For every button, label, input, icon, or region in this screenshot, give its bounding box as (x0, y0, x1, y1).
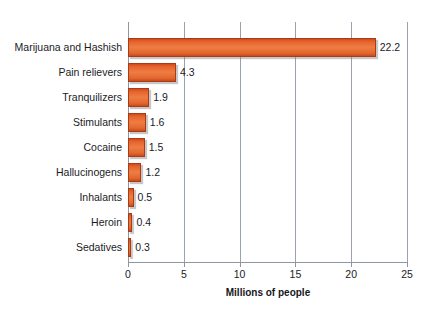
value-label: 1.9 (153, 85, 168, 110)
bar[interactable] (128, 188, 134, 207)
value-label: 0.5 (138, 185, 153, 210)
bar-row: Stimulants1.6 (0, 110, 429, 135)
value-label: 1.2 (145, 160, 160, 185)
bar-row: Cocaine1.5 (0, 135, 429, 160)
value-label: 4.3 (180, 60, 195, 85)
x-tick-mark-20 (351, 262, 352, 267)
category-label: Pain relievers (0, 60, 122, 85)
bar-wrapper (128, 185, 134, 210)
x-tick-label-15: 15 (275, 268, 315, 280)
bar-row: Heroin0.4 (0, 210, 429, 235)
value-label: 1.6 (150, 110, 165, 135)
bar-wrapper (128, 60, 176, 85)
category-label: Cocaine (0, 135, 122, 160)
bar-row: Tranquilizers1.9 (0, 85, 429, 110)
x-tick-mark-10 (240, 262, 241, 267)
value-label: 0.4 (136, 210, 151, 235)
bar-wrapper (128, 35, 376, 60)
bar[interactable] (128, 238, 131, 257)
x-tick-label-0: 0 (108, 268, 148, 280)
bar[interactable] (128, 63, 176, 82)
category-label: Inhalants (0, 185, 122, 210)
x-tick-label-10: 10 (220, 268, 260, 280)
value-label: 0.3 (135, 235, 150, 260)
bar[interactable] (128, 113, 146, 132)
bar-wrapper (128, 235, 131, 260)
bar-wrapper (128, 135, 145, 160)
bar[interactable] (128, 88, 149, 107)
bar[interactable] (128, 213, 132, 232)
category-label: Tranquilizers (0, 85, 122, 110)
category-label: Hallucinogens (0, 160, 122, 185)
bar-wrapper (128, 160, 141, 185)
category-label: Heroin (0, 210, 122, 235)
value-label: 1.5 (149, 135, 164, 160)
x-tick-mark-5 (184, 262, 185, 267)
x-tick-label-25: 25 (387, 268, 427, 280)
bar[interactable] (128, 163, 141, 182)
bar[interactable] (128, 138, 145, 157)
bar-row: Marijuana and Hashish22.2 (0, 35, 429, 60)
bar-wrapper (128, 85, 149, 110)
category-label: Sedatives (0, 235, 122, 260)
bar-wrapper (128, 210, 132, 235)
bar-row: Hallucinogens1.2 (0, 160, 429, 185)
bar-row: Sedatives0.3 (0, 235, 429, 260)
bar[interactable] (128, 38, 376, 57)
bar-row: Pain relievers4.3 (0, 60, 429, 85)
x-axis-title: Millions of people (128, 287, 408, 298)
x-axis-line (128, 262, 408, 263)
bar-row: Inhalants0.5 (0, 185, 429, 210)
value-label: 22.2 (380, 35, 400, 60)
x-tick-label-5: 5 (164, 268, 204, 280)
x-tick-mark-0 (128, 262, 129, 267)
category-label: Marijuana and Hashish (0, 35, 122, 60)
x-tick-mark-15 (295, 262, 296, 267)
x-tick-label-20: 20 (331, 268, 371, 280)
category-label: Stimulants (0, 110, 122, 135)
bar-wrapper (128, 110, 146, 135)
x-tick-mark-25 (407, 262, 408, 267)
chart-page: 0510152025 Marijuana and Hashish22.2Pain… (0, 0, 429, 312)
